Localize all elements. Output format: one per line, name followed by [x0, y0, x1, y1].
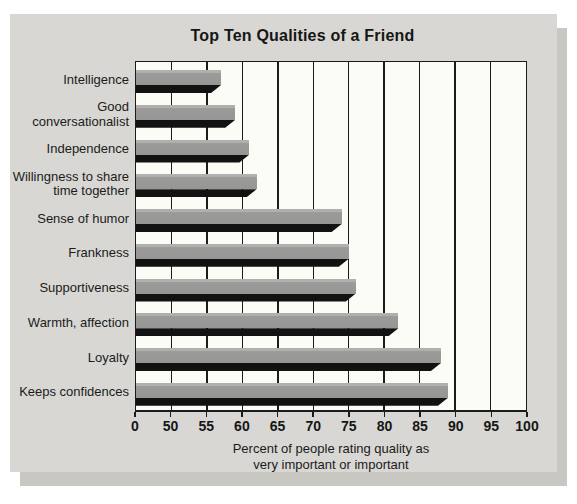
tick-label: 75	[341, 418, 357, 434]
bar	[136, 279, 356, 294]
bar	[136, 105, 235, 120]
bar-3d-shadow	[136, 363, 441, 371]
tick-label: 90	[448, 418, 464, 434]
category-label: Willingness to sharetime together	[10, 165, 129, 200]
category-label: Goodconversationalist	[10, 96, 129, 131]
bar-row	[136, 375, 526, 410]
page: { "panel": { "background_color": "#d8d7d…	[0, 0, 577, 504]
bar-row	[136, 305, 526, 340]
bar	[136, 383, 448, 398]
bar-3d-shadow	[136, 189, 257, 197]
bar	[136, 174, 257, 189]
bar-row	[136, 271, 526, 306]
bar-3d-shadow	[136, 328, 398, 336]
bar-row	[136, 236, 526, 271]
bar	[136, 140, 249, 155]
tick-label: 85	[412, 418, 428, 434]
tick-mark	[206, 412, 208, 417]
bar	[136, 209, 342, 224]
category-label: Warmth, affection	[10, 304, 129, 339]
tick-mark	[491, 412, 493, 417]
tick-label: 100	[515, 418, 538, 434]
bar-row	[136, 340, 526, 375]
tick-label: 70	[305, 418, 321, 434]
bar-3d-shadow	[136, 155, 249, 163]
x-axis-label-line1: Percent of people rating quality as	[135, 441, 527, 457]
tick-label: 50	[163, 418, 179, 434]
bar	[136, 244, 349, 259]
tick-mark	[277, 412, 279, 417]
bar-row	[136, 166, 526, 201]
bar-3d-shadow	[136, 259, 349, 267]
tick-label: 60	[234, 418, 250, 434]
category-label: Keeps confidences	[10, 374, 129, 409]
tick-label: 0	[131, 418, 139, 434]
bar-3d-shadow	[136, 224, 342, 232]
bar	[136, 70, 221, 85]
category-label: Sense of humor	[10, 200, 129, 235]
tick-label: 65	[270, 418, 286, 434]
tick-mark	[455, 412, 457, 417]
bar-row	[136, 97, 526, 132]
bar	[136, 348, 441, 363]
tick-mark	[134, 412, 136, 417]
tick-label: 55	[198, 418, 214, 434]
tick-mark	[384, 412, 386, 417]
tick-mark	[348, 412, 350, 417]
x-axis-label-line2: very important or important	[135, 457, 527, 473]
bar-3d-shadow	[136, 120, 235, 128]
bar-3d-shadow	[136, 294, 356, 302]
tick-label: 95	[484, 418, 500, 434]
category-label: Independence	[10, 131, 129, 166]
chart-title: Top Ten Qualities of a Friend	[10, 27, 557, 45]
plot-area	[135, 61, 527, 412]
bar-3d-shadow	[136, 85, 221, 93]
tick-mark	[241, 412, 243, 417]
category-label: Supportiveness	[10, 270, 129, 305]
chart-panel: Top Ten Qualities of a Friend Intelligen…	[10, 14, 557, 472]
category-label: Intelligence	[10, 61, 129, 96]
category-label: Loyalty	[10, 339, 129, 374]
bar	[136, 313, 398, 328]
bar-3d-shadow	[136, 398, 448, 406]
tick-mark	[419, 412, 421, 417]
category-axis: IntelligenceGoodconversationalistIndepen…	[10, 61, 129, 412]
bar-row	[136, 201, 526, 236]
bar-row	[136, 62, 526, 97]
tick-mark	[312, 412, 314, 417]
x-axis-label: Percent of people rating quality as very…	[135, 441, 527, 474]
category-label: Frankness	[10, 235, 129, 270]
tick-mark	[526, 412, 528, 417]
tick-label: 80	[377, 418, 393, 434]
tick-mark	[170, 412, 172, 417]
bar-row	[136, 132, 526, 167]
